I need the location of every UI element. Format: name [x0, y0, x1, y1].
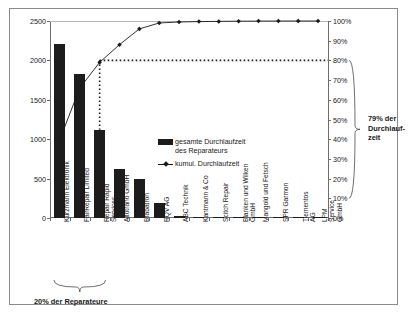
right-axis-tick-label: 40%	[333, 135, 347, 144]
right-axis-tick-label: 70%	[333, 76, 347, 85]
cumulative-line-marker	[296, 19, 301, 24]
pareto-chart-plot: 05001000150020002500 0%10%20%30%40%50%60…	[50, 21, 328, 218]
bracket-79-percent	[349, 60, 360, 198]
cumulative-line-marker	[236, 19, 241, 24]
right-axis-tick-mark	[328, 41, 331, 42]
right-axis-tick-mark	[328, 179, 331, 180]
right-axis-tick-label: 50%	[333, 115, 347, 124]
cumulative-line-marker	[58, 137, 63, 142]
legend-item-bars: gesamte Durchlaufzeit des Reparateurs	[158, 138, 246, 156]
cumulative-line-marker	[316, 19, 321, 24]
line-marker-icon	[158, 160, 173, 169]
legend-item-line: kumul. Durchlaufzeit	[158, 160, 246, 169]
cumulative-line-marker	[157, 21, 162, 26]
bar-swatch-icon	[158, 139, 173, 145]
right-axis-tick-label: 20%	[333, 174, 347, 183]
right-axis-tick-label: 30%	[333, 154, 347, 163]
left-axis-tick-label: 2000	[30, 56, 46, 65]
right-axis-tick-mark	[328, 139, 331, 140]
chart-frame: 05001000150020002500 0%10%20%30%40%50%60…	[9, 8, 398, 305]
chart-legend: gesamte Durchlaufzeit des Reparateurs ku…	[158, 138, 246, 173]
x-axis-tick-mark	[50, 218, 51, 221]
annotation-79-percent: 79% der Durchlauf- zeit	[368, 114, 405, 143]
right-axis-tick-mark	[328, 21, 331, 22]
annotation-20-percent: 20% der Reparateure	[34, 297, 108, 306]
right-axis-tick-mark	[328, 60, 331, 61]
left-axis-tick-label: 500	[34, 174, 46, 183]
right-axis-tick-label: 60%	[333, 95, 347, 104]
left-axis-tick-label: 1500	[30, 95, 46, 104]
cumulative-line-marker	[276, 19, 281, 24]
left-axis-tick-label: 0	[42, 214, 46, 223]
legend-label-bars: gesamte Durchlaufzeit des Reparateurs	[175, 138, 246, 156]
left-axis-tick-label: 2500	[30, 17, 46, 26]
cumulative-line-marker	[217, 19, 222, 24]
legend-label-line: kumul. Durchlaufzeit	[175, 160, 239, 169]
left-axis-tick-label: 1000	[30, 135, 46, 144]
right-axis-tick-label: 80%	[333, 56, 347, 65]
cumulative-line	[60, 21, 318, 139]
right-axis-tick-mark	[328, 80, 331, 81]
right-axis-tick-label: 90%	[333, 36, 347, 45]
cumulative-line-marker	[256, 19, 261, 24]
bracket-20-percent	[54, 280, 106, 292]
right-axis-tick-mark	[328, 120, 331, 121]
right-axis-tick-mark	[328, 159, 331, 160]
right-axis-tick-mark	[328, 100, 331, 101]
cumulative-line-overlay	[50, 21, 328, 218]
right-axis-tick-label: 100%	[333, 17, 351, 26]
cumulative-line-marker	[197, 19, 202, 24]
cumulative-line-marker	[177, 20, 182, 25]
